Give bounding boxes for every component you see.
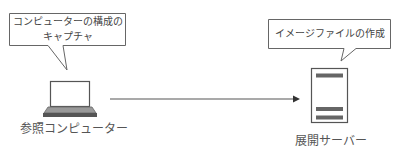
left-callout-line2: キャプチャ — [10, 29, 125, 44]
right-callout-line1: イメージファイルの作成 — [269, 26, 390, 41]
left-callout-text: コンピューターの構成の キャプチャ — [10, 14, 125, 44]
left-node-label: 参照コンピューター — [20, 119, 128, 136]
right-callout-text: イメージファイルの作成 — [269, 26, 390, 41]
connector-arrow — [110, 96, 300, 103]
left-callout-line1: コンピューターの構成の — [10, 14, 125, 29]
right-node-label: 展開サーバー — [295, 131, 367, 148]
laptop-icon — [43, 82, 97, 118]
server-icon — [312, 69, 348, 123]
